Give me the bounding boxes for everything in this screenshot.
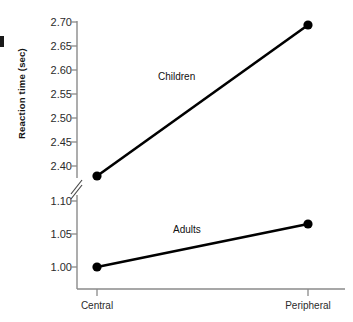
y-tick-marks-upper <box>70 22 77 166</box>
series-children-point-central <box>92 171 101 180</box>
series-label-adults: Adults <box>173 224 201 235</box>
plot-area <box>0 0 353 322</box>
series-adults-line <box>97 224 308 267</box>
series-children-line <box>97 25 308 176</box>
series-adults-point-peripheral <box>303 219 312 228</box>
y-tick-marks-lower <box>70 201 77 267</box>
x-tick-label-peripheral: Peripheral <box>263 301 353 311</box>
x-tick-marks <box>97 289 308 296</box>
series-label-children: Children <box>158 71 195 82</box>
x-tick-label-central: Central <box>52 301 142 311</box>
series-children-point-peripheral <box>303 20 312 29</box>
series-adults-point-central <box>92 262 101 271</box>
series-children <box>92 20 312 180</box>
line-chart: Reaction time (sec) 2.70 2.65 2.60 2.55 … <box>0 0 353 322</box>
series-adults <box>92 219 312 271</box>
